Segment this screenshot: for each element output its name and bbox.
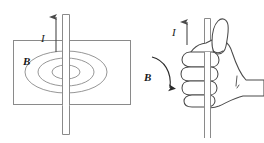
current-label-right: I xyxy=(172,27,176,38)
physics-figure-right-hand-rule: I B I B xyxy=(0,0,264,143)
finger-middle xyxy=(181,67,218,81)
wire-body-mask xyxy=(63,15,70,106)
figure-canvas xyxy=(0,0,264,143)
field-label-left: B xyxy=(23,56,30,67)
left-panel-group xyxy=(14,15,131,135)
field-plane-rectangle xyxy=(14,41,131,105)
finger-ring xyxy=(182,81,217,95)
field-curved-arrow xyxy=(152,57,170,88)
current-label-left: I xyxy=(41,33,45,44)
right-panel-group xyxy=(152,18,264,138)
rod-front-body xyxy=(205,52,211,138)
field-label-right: B xyxy=(144,72,151,83)
right-hand xyxy=(181,19,264,108)
wire-through-plane xyxy=(63,15,70,106)
wire-lower-segment xyxy=(63,104,70,135)
rod-front-overlay xyxy=(205,52,211,138)
finger-index xyxy=(182,52,219,67)
